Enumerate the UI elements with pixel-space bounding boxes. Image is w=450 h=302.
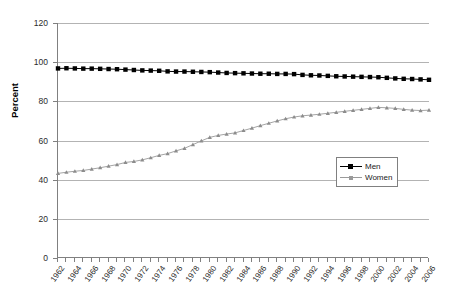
y-axis-tick-label: 100	[22, 58, 48, 66]
x-axis-tick	[411, 258, 412, 262]
x-axis-tick	[259, 258, 260, 262]
x-axis-tick	[344, 258, 345, 262]
x-axis-tick	[200, 258, 201, 262]
data-point	[317, 73, 321, 77]
x-axis-tick-label: 1962	[45, 264, 66, 289]
data-point	[326, 74, 330, 78]
data-point	[342, 74, 346, 78]
data-point	[140, 68, 144, 72]
x-axis-tick	[243, 258, 244, 262]
x-axis-tick	[133, 258, 134, 262]
legend-marker-men	[340, 163, 362, 170]
x-axis-tick	[167, 258, 168, 262]
x-axis-tick	[293, 258, 294, 262]
data-point	[73, 66, 77, 70]
x-axis-tick	[141, 258, 142, 262]
x-axis-tick	[226, 258, 227, 262]
data-point	[106, 67, 110, 71]
data-point	[157, 69, 161, 73]
x-axis-tick	[352, 258, 353, 262]
data-point	[258, 72, 262, 76]
legend-item-women: Women	[340, 172, 392, 183]
data-point	[165, 69, 169, 73]
y-axis-tick-label: 60	[22, 137, 48, 145]
x-axis-tick	[158, 258, 159, 262]
x-axis-tick	[251, 258, 252, 262]
x-axis-tick	[428, 258, 429, 262]
data-point	[283, 72, 287, 76]
data-point	[191, 70, 195, 74]
data-point	[199, 70, 203, 74]
x-axis-tick	[394, 258, 395, 262]
data-point	[292, 72, 296, 76]
data-point	[309, 73, 313, 77]
data-point	[359, 75, 363, 79]
data-point	[208, 70, 212, 74]
data-point	[300, 73, 304, 77]
data-point	[402, 77, 406, 81]
x-axis-tick	[285, 258, 286, 262]
x-axis-tick	[276, 258, 277, 262]
data-point	[368, 75, 372, 79]
x-axis-tick	[57, 258, 58, 262]
y-axis-tick	[53, 62, 57, 63]
series-layer	[58, 23, 429, 258]
data-point	[351, 74, 355, 78]
x-axis-tick	[217, 258, 218, 262]
x-axis-tick	[124, 258, 125, 262]
x-axis-tick	[377, 258, 378, 262]
x-axis-tick	[192, 258, 193, 262]
y-axis-tick-label: 120	[22, 19, 48, 27]
x-axis-tick	[65, 258, 66, 262]
data-point	[132, 68, 136, 72]
x-axis-tick	[369, 258, 370, 262]
legend-marker-women	[340, 174, 362, 181]
data-point	[123, 67, 127, 71]
y-axis-title: Percent	[9, 83, 20, 118]
data-point	[216, 70, 220, 74]
y-axis-tick-label: 40	[22, 176, 48, 184]
x-axis-tick	[175, 258, 176, 262]
x-axis-tick	[234, 258, 235, 262]
x-axis-tick	[302, 258, 303, 262]
x-axis-tick	[327, 258, 328, 262]
data-point	[224, 71, 228, 75]
data-point	[115, 67, 119, 71]
x-axis-tick	[335, 258, 336, 262]
x-axis-tick	[82, 258, 83, 262]
legend: Men Women	[336, 157, 398, 187]
x-axis-tick	[268, 258, 269, 262]
x-axis-tick	[91, 258, 92, 262]
x-axis-tick	[108, 258, 109, 262]
x-axis-tick	[403, 258, 404, 262]
x-axis-tick	[310, 258, 311, 262]
x-axis-tick	[74, 258, 75, 262]
legend-label-women: Women	[365, 173, 392, 182]
data-point	[98, 67, 102, 71]
data-point	[241, 71, 245, 75]
data-point	[90, 66, 94, 70]
x-axis-tick	[386, 258, 387, 262]
y-axis-tick	[53, 101, 57, 102]
x-axis-tick	[318, 258, 319, 262]
y-axis-tick	[53, 23, 57, 24]
data-point	[174, 69, 178, 73]
y-axis-tick-label: 80	[22, 97, 48, 105]
data-point	[334, 74, 338, 78]
x-axis-tick	[209, 258, 210, 262]
y-axis-tick-label: 0	[22, 254, 48, 262]
x-axis-tick	[420, 258, 421, 262]
data-point	[267, 72, 271, 76]
x-axis-tick	[99, 258, 100, 262]
y-axis-tick	[53, 180, 57, 181]
x-axis-tick	[116, 258, 117, 262]
y-axis-tick	[53, 141, 57, 142]
x-axis-tick	[150, 258, 151, 262]
data-point	[56, 66, 60, 70]
legend-item-men: Men	[340, 161, 392, 172]
data-point	[182, 69, 186, 73]
data-point	[250, 71, 254, 75]
data-point	[418, 77, 422, 81]
y-axis-tick	[53, 219, 57, 220]
legend-label-men: Men	[365, 162, 381, 171]
